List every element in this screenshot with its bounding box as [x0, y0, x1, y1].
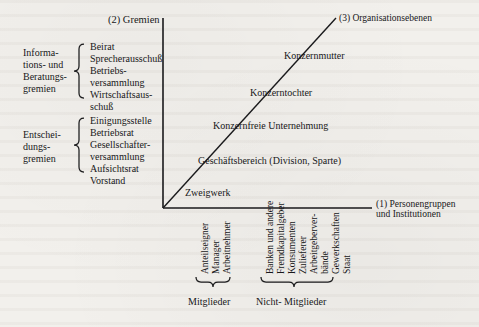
gremium-wirtschaftsausschuss-l1: Wirtschaftsaus- — [90, 90, 152, 100]
brace-informations-beratungsgremien — [74, 44, 84, 98]
group-label-entscheidungs-l2: dungs- — [23, 142, 50, 152]
gremium-beirat: Beirat — [90, 42, 114, 52]
gremium-einigungsstelle: Einigungsstelle — [90, 116, 152, 126]
gremium-gesellschafterversammlung-l1: Gesellschafter- — [90, 140, 150, 150]
person-manager: Manager — [212, 240, 222, 274]
person-banken-l2: Fremdkapitalgeber — [277, 202, 287, 274]
bracket-label-nicht-mitglieder: Nicht- Mitglieder — [256, 297, 326, 307]
brace-entscheidungsgremien — [74, 118, 84, 172]
gremium-aufsichtsrat: Aufsichtsrat — [90, 164, 139, 174]
level-konzerntochter: Konzerntochter — [250, 88, 312, 98]
figure-canvas: (2) Gremien (3) Organisationsebenen (1) … — [0, 0, 479, 327]
person-arbeitgeberverbaende-l2: bände — [321, 251, 331, 274]
group-label-entscheidungs-l1: Entschei- — [23, 130, 61, 140]
level-konzernfreie-unternehmung: Konzernfreie Unternehmung — [213, 121, 328, 131]
person-banken-l1: Banken und andere — [266, 201, 276, 274]
brace-mitglieder — [196, 277, 230, 287]
gremium-betriebsversammlung-l1: Betriebs- — [90, 66, 127, 76]
group-label-informations-l3: Beratungs- — [23, 72, 67, 82]
person-gewerkschaften: Gewerkschaften — [332, 212, 342, 274]
person-arbeitnehmer: Arbeitnehmer — [223, 221, 233, 274]
person-arbeitgeberverbaende-l1: Arbeitgeberver- — [310, 214, 320, 274]
brace-nicht-mitglieder — [261, 277, 333, 287]
horizontal-axis-label-line2: und Institutionen — [376, 210, 441, 220]
vertical-axis-label: (2) Gremien — [108, 15, 160, 26]
group-label-entscheidungs-l3: gremien — [23, 154, 56, 164]
level-geschaeftsbereich: Geschäftsbereich (Division, Sparte) — [198, 156, 341, 166]
group-label-informations-l4: gremien — [23, 84, 56, 94]
level-konzernmutter: Konzernmutter — [284, 51, 345, 61]
group-label-informations-l2: tions- und — [23, 60, 63, 70]
person-staat: Staat — [343, 255, 353, 274]
level-zweigwerk: Zweigwerk — [185, 188, 231, 198]
gremium-gesellschafterversammlung-l2: versammlung — [90, 152, 144, 162]
person-konsumenten: Konsumenten — [288, 221, 298, 274]
person-anteilseigner: Anteilseigner — [201, 223, 211, 274]
diagonal-axis-label: (3) Organisationsebenen — [339, 14, 432, 24]
gremium-wirtschaftsausschuss-l2: schuß — [90, 102, 113, 112]
gremium-betriebsversammlung-l2: versammlung — [90, 78, 144, 88]
bracket-label-mitglieder: Mitglieder — [188, 297, 230, 307]
person-zulieferer: Zulieferer — [299, 236, 309, 274]
gremium-sprecherausschuss: Sprecherausschuß — [90, 54, 162, 64]
gremium-vorstand: Vorstand — [90, 176, 125, 186]
diagonal-axis-line — [163, 18, 336, 208]
gremium-betriebsrat: Betriebsrat — [90, 128, 134, 138]
group-label-informations-l1: Informa- — [23, 48, 59, 58]
